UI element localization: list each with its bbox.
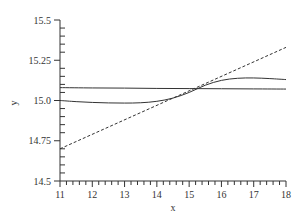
x-tick-label: 12	[87, 189, 97, 200]
x-axis-title: x	[171, 202, 176, 213]
axes: 111213141516171814.514.7515.015.2515.5	[29, 15, 292, 201]
y-tick-label: 15.0	[34, 95, 52, 106]
y-tick-label: 15.5	[34, 15, 52, 26]
x-tick-label: 15	[184, 189, 194, 200]
y-axis-title: y	[8, 101, 19, 106]
x-tick-label: 13	[120, 189, 130, 200]
x-tick-label: 16	[216, 189, 226, 200]
x-tick-label: 18	[281, 189, 291, 200]
series-horizontal-line	[60, 88, 286, 89]
x-tick-label: 11	[55, 189, 65, 200]
plot-series	[60, 47, 286, 148]
y-tick-label: 14.5	[34, 176, 52, 187]
x-tick-label: 14	[152, 189, 162, 200]
x-tick-label: 17	[249, 189, 259, 200]
y-tick-label: 15.25	[29, 55, 52, 66]
series-curve-line	[60, 78, 286, 103]
y-tick-label: 14.75	[29, 135, 52, 146]
line-chart: 111213141516171814.514.7515.015.2515.5 x…	[0, 0, 305, 222]
